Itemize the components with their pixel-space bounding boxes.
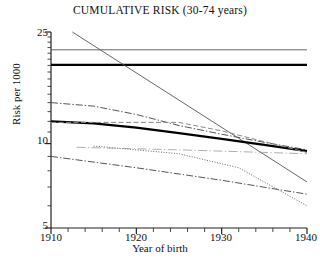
- series-9-thin-flat-lower: [77, 147, 307, 153]
- series-8-dashdot-lower: [51, 156, 307, 194]
- data-series-lines: [51, 32, 307, 206]
- x-axis-ticks: [51, 228, 307, 234]
- plot-canvas: [0, 0, 320, 262]
- series-3-steep-solid-decline: [72, 32, 307, 182]
- chart-figure: CUMULATIVE RISK (30-74 years) Risk per 1…: [0, 0, 320, 262]
- axis-lines: [51, 32, 307, 228]
- series-6-dashed-flat: [51, 122, 307, 152]
- y-axis-ticks: [45, 32, 51, 228]
- series-7-dotted-decline: [94, 146, 307, 206]
